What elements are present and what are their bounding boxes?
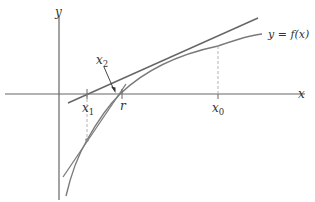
- label-x2: x2: [96, 53, 108, 69]
- label-x0: x0: [212, 101, 224, 117]
- label-x1: x1: [82, 101, 94, 117]
- tangent-line-x1: [63, 84, 126, 177]
- newton-method-diagram: y x x2 x1 r x0 y = f(x): [0, 0, 315, 202]
- y-axis-label: y: [54, 5, 62, 19]
- label-r: r: [120, 99, 127, 113]
- curve-label: y = f(x): [267, 28, 309, 41]
- point-f-x1: [85, 138, 89, 142]
- x-axis-label: x: [298, 87, 305, 101]
- arrowhead-icon: [111, 87, 116, 94]
